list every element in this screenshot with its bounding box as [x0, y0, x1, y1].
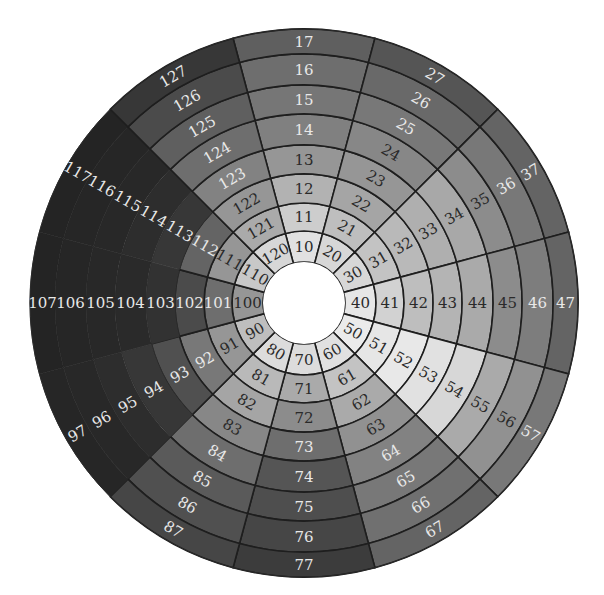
center-hole	[263, 262, 345, 344]
cell-label: 76	[294, 528, 313, 546]
cell-label: 74	[294, 468, 313, 486]
cell-label: 71	[294, 380, 313, 398]
cell-label: 46	[528, 294, 547, 312]
cell-label: 72	[294, 409, 313, 427]
cell-label: 44	[468, 294, 487, 312]
cell-label: 17	[294, 33, 313, 51]
cell-label: 102	[175, 294, 204, 312]
cell-label: 14	[294, 121, 313, 139]
cell-label: 103	[146, 294, 175, 312]
cell-label: 77	[294, 556, 313, 574]
cell-label: 10	[294, 238, 313, 256]
cell-label: 41	[380, 294, 399, 312]
cell-label: 73	[294, 438, 313, 456]
cell-label: 100	[233, 294, 262, 312]
cell-label: 15	[294, 91, 313, 109]
cell-label: 101	[204, 294, 233, 312]
cell-label: 16	[294, 61, 313, 79]
polar-sector-diagram: 1011121314151617202122232425262730313233…	[0, 0, 604, 595]
cell-label: 105	[86, 294, 115, 312]
cell-label: 42	[409, 294, 428, 312]
cell-label: 13	[294, 151, 313, 169]
cell-label: 75	[294, 498, 313, 516]
cell-label: 106	[56, 294, 85, 312]
cell-label: 11	[294, 208, 313, 226]
cell-label: 70	[294, 351, 313, 369]
cell-label: 12	[294, 180, 313, 198]
cell-label: 40	[351, 294, 370, 312]
cell-label: 107	[28, 294, 57, 312]
cell-label: 43	[438, 294, 457, 312]
cell-label: 47	[556, 294, 575, 312]
cell-label: 45	[498, 294, 517, 312]
cell-label: 104	[116, 294, 145, 312]
